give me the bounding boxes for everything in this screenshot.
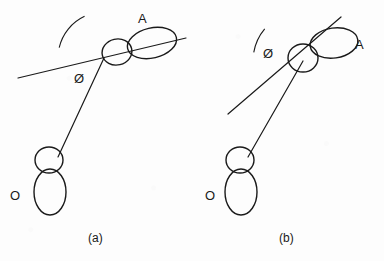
panel-a-acceptor-large-lobe [124,23,179,63]
figure-drawing-canvas [0,0,384,261]
panel-b-acceptor-large-lobe [308,25,360,61]
panel-a-donor-large-lobe [34,169,66,215]
panel-b-reference-axis-line [228,17,341,114]
panel-a-donor-label: O [10,189,20,202]
panel-b-bond-line [248,61,303,157]
panel-a-reference-axis-line [18,38,186,78]
orbital-overlap-figure: A O Ø (a) A O Ø (b) [0,0,384,261]
panel-a-angle-arc [59,16,84,47]
panel-b-donor-label: O [205,189,215,202]
panel-b-donor-large-lobe [225,169,257,215]
panel-a-angle-symbol: Ø [74,72,84,85]
panel-b-angle-symbol: Ø [263,47,273,60]
panel-a-acceptor-label: A [138,12,147,25]
panel-b-acceptor-label: A [355,38,364,51]
panel-b-caption: (b) [279,232,294,244]
panel-a-caption: (a) [88,232,103,244]
